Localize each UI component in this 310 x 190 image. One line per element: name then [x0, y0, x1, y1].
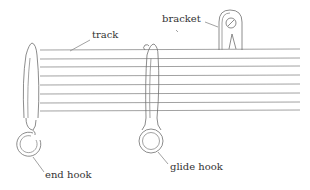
end-hook-leader	[33, 157, 44, 172]
glide-hook-label: glide hook	[170, 162, 223, 172]
curtain-track-diagram: track bracket end hook glide hook	[0, 0, 310, 190]
glide-hook-leader	[158, 152, 168, 164]
bracket-leader	[205, 22, 218, 27]
track-label: track	[92, 30, 118, 40]
bracket	[219, 10, 242, 50]
track	[40, 49, 300, 111]
glide-hook	[139, 44, 163, 153]
end-hook-label: end hook	[45, 170, 91, 180]
end-hook	[17, 43, 41, 156]
track-leader	[70, 40, 90, 51]
stray-mark	[176, 30, 178, 32]
curtain-track-illustration	[0, 0, 310, 190]
bracket-label: bracket	[162, 14, 201, 24]
